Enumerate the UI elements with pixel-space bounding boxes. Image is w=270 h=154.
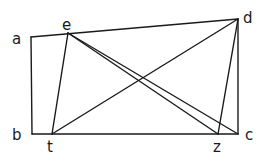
segment-ab	[31, 37, 32, 134]
segment-et	[52, 33, 68, 134]
label-a: a	[12, 30, 21, 48]
segment-ec	[68, 33, 238, 134]
segments	[31, 19, 238, 134]
label-d: d	[243, 9, 253, 27]
label-b: b	[12, 126, 22, 144]
label-e: e	[62, 16, 71, 34]
point-labels: aedbtzc	[12, 9, 253, 154]
segment-dz	[218, 19, 238, 134]
label-c: c	[245, 126, 253, 144]
label-t: t	[47, 138, 53, 154]
label-z: z	[213, 138, 221, 154]
segment-ez	[68, 33, 218, 134]
geometry-diagram: aedbtzc	[0, 0, 270, 154]
